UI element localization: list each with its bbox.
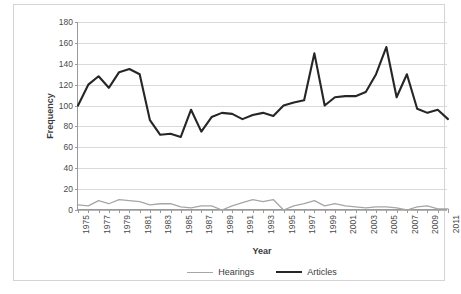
series-line-articles — [78, 47, 448, 137]
y-axis-tick-label: 60 — [33, 143, 73, 152]
x-axis-title: Year — [77, 246, 447, 256]
x-axis-tick-label: 2003 — [370, 215, 379, 234]
x-axis-tick-label: 1991 — [246, 215, 255, 234]
x-axis-tick-label: 1979 — [123, 215, 132, 234]
x-axis-tick-label: 1987 — [205, 215, 214, 234]
x-axis-tick-label: 1993 — [267, 215, 276, 234]
legend-item-hearings[interactable]: Hearings — [187, 267, 254, 277]
x-axis-tick-mark — [448, 209, 449, 213]
legend-label: Articles — [307, 267, 337, 277]
y-axis-tick-label: 80 — [33, 122, 73, 131]
y-axis-title: Frequency — [43, 22, 57, 210]
x-axis-tick-label: 2011 — [452, 215, 461, 233]
y-axis-title-container: Frequency — [28, 22, 42, 210]
chart-legend: HearingsArticles — [77, 267, 447, 277]
x-axis-tick-label: 2005 — [390, 215, 399, 234]
y-axis-tick-label: 0 — [33, 206, 73, 215]
legend-label: Hearings — [218, 267, 254, 277]
x-axis-tick-label: 1997 — [308, 215, 317, 234]
x-axis-tick-label: 1985 — [185, 215, 194, 234]
x-axis-tick-label: 2007 — [411, 215, 420, 234]
x-axis-tick-label: 1983 — [164, 215, 173, 234]
x-axis-tick-label: 1989 — [226, 215, 235, 234]
series-lines — [78, 22, 448, 210]
plot-area: 020406080100120140160180 197519771979198… — [77, 22, 447, 210]
x-axis-tick-label: 2001 — [349, 215, 358, 234]
y-axis-tick-label: 20 — [33, 185, 73, 194]
x-axis-tick-label: 2009 — [431, 215, 440, 234]
x-axis-tick-label: 1999 — [329, 215, 338, 234]
legend-line-swatch — [187, 272, 213, 273]
x-axis-tick-label: 1981 — [144, 215, 153, 234]
y-axis-tick-label: 120 — [33, 80, 73, 89]
y-axis-tick-label: 40 — [33, 164, 73, 173]
y-axis-tick-label: 100 — [33, 101, 73, 110]
y-axis-tick-label: 160 — [33, 39, 73, 48]
x-axis-tick-label: 1975 — [82, 215, 91, 234]
legend-line-swatch — [276, 271, 302, 273]
series-line-hearings — [78, 200, 448, 210]
chart-frame: Frequency 020406080100120140160180 19751… — [13, 4, 445, 281]
x-axis-tick-label: 1995 — [288, 215, 297, 234]
x-axis-tick-label: 1977 — [103, 215, 112, 234]
legend-item-articles[interactable]: Articles — [276, 267, 337, 277]
y-axis-tick-label: 140 — [33, 60, 73, 69]
y-axis-tick-label: 180 — [33, 18, 73, 27]
